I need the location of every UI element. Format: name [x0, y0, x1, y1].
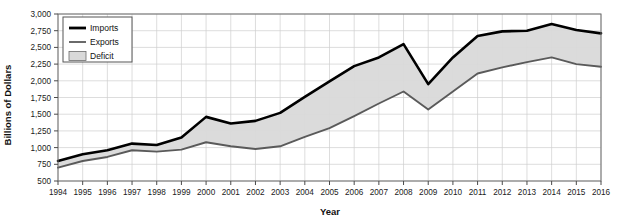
y-tick-label: 1,500	[31, 110, 52, 119]
x-tick-label: 2008	[394, 188, 413, 197]
y-tick-label: 3,000	[31, 10, 52, 19]
x-axis-ticks: 1994199519961997199819992000200120022003…	[49, 181, 611, 197]
x-tick-label: 2000	[197, 188, 216, 197]
legend-label-deficit: Deficit	[90, 51, 114, 61]
y-tick-label: 2,250	[31, 60, 52, 69]
y-tick-label: 1,750	[31, 94, 52, 103]
x-axis-title: Year	[320, 206, 340, 217]
x-tick-label: 2016	[592, 188, 611, 197]
x-tick-label: 2004	[296, 188, 315, 197]
y-tick-label: 1,250	[31, 127, 52, 136]
y-tick-label: 2,000	[31, 77, 52, 86]
y-tick-label: 1,000	[31, 144, 52, 153]
x-tick-label: 2003	[271, 188, 290, 197]
legend-label-exports: Exports	[90, 37, 119, 47]
x-tick-label: 2015	[567, 188, 586, 197]
x-tick-label: 2007	[370, 188, 389, 197]
x-tick-label: 2012	[493, 188, 512, 197]
x-tick-label: 1995	[74, 188, 93, 197]
y-axis-title: Billions of Dollars	[2, 65, 13, 146]
x-tick-label: 2001	[222, 188, 241, 197]
x-tick-label: 2009	[419, 188, 438, 197]
x-tick-label: 2006	[345, 188, 364, 197]
x-tick-label: 2013	[518, 188, 537, 197]
y-tick-label: 500	[37, 177, 51, 186]
x-tick-label: 2014	[543, 188, 562, 197]
x-tick-label: 2005	[320, 188, 339, 197]
x-tick-label: 1994	[49, 188, 68, 197]
x-tick-label: 2010	[444, 188, 463, 197]
chart-container: 5007501,0001,2501,5001,7502,0002,2502,50…	[0, 0, 620, 220]
y-tick-label: 750	[37, 160, 51, 169]
y-tick-label: 2,750	[31, 27, 52, 36]
y-tick-label: 2,500	[31, 43, 52, 52]
x-tick-label: 1998	[148, 188, 167, 197]
legend-label-imports: Imports	[90, 23, 118, 33]
x-tick-label: 2011	[469, 188, 487, 197]
legend-swatch-deficit	[69, 52, 86, 61]
trade-balance-chart: 5007501,0001,2501,5001,7502,0002,2502,50…	[0, 0, 620, 220]
x-tick-label: 2002	[246, 188, 265, 197]
y-axis-ticks: 5007501,0001,2501,5001,7502,0002,2502,50…	[31, 10, 59, 186]
x-tick-label: 1996	[98, 188, 117, 197]
chart-legend: ImportsExportsDeficit	[63, 17, 132, 62]
x-tick-label: 1997	[123, 188, 142, 197]
x-tick-label: 1999	[172, 188, 191, 197]
